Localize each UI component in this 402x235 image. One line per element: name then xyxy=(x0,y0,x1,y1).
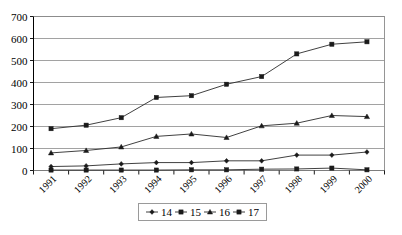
data-point-17 xyxy=(224,168,228,172)
y-axis-label: 600 xyxy=(11,33,28,45)
data-point-17 xyxy=(260,167,264,171)
legend-label-17: 17 xyxy=(248,206,260,218)
x-axis-label: 1995 xyxy=(177,173,199,195)
series-line-17 xyxy=(51,168,367,170)
legend-label-16: 16 xyxy=(219,206,231,218)
y-axis-label: 200 xyxy=(11,121,28,133)
y-axis-label: 700 xyxy=(11,11,28,23)
chart-canvas: 0100200300400500600700199119921993199419… xyxy=(0,0,402,235)
x-axis-label: 1992 xyxy=(72,173,94,195)
x-axis-label: 1991 xyxy=(36,173,58,195)
data-point-15 xyxy=(295,52,299,56)
data-point-14 xyxy=(259,158,263,163)
y-axis-label: 500 xyxy=(11,55,28,67)
data-point-17 xyxy=(365,168,369,172)
legend-label-14: 14 xyxy=(161,206,173,218)
series-line-15 xyxy=(51,42,367,129)
data-point-15 xyxy=(84,123,88,127)
data-point-14 xyxy=(119,162,123,167)
data-point-17 xyxy=(119,168,123,172)
data-point-14 xyxy=(365,150,369,155)
x-axis-label: 1997 xyxy=(247,173,269,195)
data-point-15 xyxy=(224,82,228,86)
data-point-15 xyxy=(365,40,369,44)
data-point-17 xyxy=(84,168,88,172)
data-point-15 xyxy=(260,74,264,78)
legend-label-15: 15 xyxy=(190,206,202,218)
legend-marker-17 xyxy=(237,210,241,214)
x-axis-label: 1993 xyxy=(107,173,129,195)
data-point-17 xyxy=(330,166,334,170)
y-axis-label: 300 xyxy=(11,99,28,111)
data-point-17 xyxy=(295,167,299,171)
legend-marker-15 xyxy=(179,210,183,214)
y-axis-label: 0 xyxy=(22,165,28,177)
y-axis-label: 400 xyxy=(11,77,28,89)
x-axis-label: 1996 xyxy=(212,173,234,195)
data-point-17 xyxy=(189,168,193,172)
x-axis-label: 1998 xyxy=(282,173,304,195)
data-point-15 xyxy=(49,127,53,131)
data-point-14 xyxy=(154,160,158,165)
series-line-16 xyxy=(51,116,367,153)
data-point-14 xyxy=(330,153,334,158)
data-point-17 xyxy=(49,168,53,172)
data-point-14 xyxy=(84,163,88,168)
x-axis-label: 1994 xyxy=(142,173,164,195)
y-axis-label: 100 xyxy=(11,143,28,155)
series-line-14 xyxy=(51,152,367,167)
data-point-17 xyxy=(154,168,158,172)
x-axis-label: 1999 xyxy=(317,173,339,195)
data-point-14 xyxy=(295,153,299,158)
line-chart: 0100200300400500600700199119921993199419… xyxy=(0,0,402,235)
data-point-15 xyxy=(119,116,123,120)
data-point-14 xyxy=(189,160,193,165)
x-axis-label: 2000 xyxy=(352,173,374,195)
data-point-14 xyxy=(224,158,228,163)
data-point-15 xyxy=(154,95,158,99)
data-point-15 xyxy=(189,94,193,98)
data-point-15 xyxy=(330,42,334,46)
